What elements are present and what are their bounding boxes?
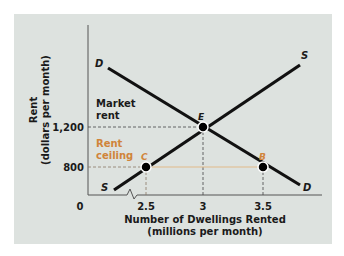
rent-ceiling-label-line1: Rent bbox=[96, 138, 123, 149]
supply-label-start: S bbox=[101, 182, 108, 193]
x-axis-subtitle: (millions per month) bbox=[147, 226, 262, 237]
point-c-label: C bbox=[141, 152, 148, 162]
point-e-marker bbox=[198, 122, 208, 132]
x-axis-title: Number of Dwellings Rented bbox=[124, 214, 286, 225]
y-axis-subtitle: (dollars per month) bbox=[40, 55, 51, 165]
point-c-marker bbox=[141, 162, 151, 172]
rent-ceiling-chart: D D S S E C B Market rent Rent ceiling 1… bbox=[0, 0, 344, 256]
x-tick-3-5: 3.5 bbox=[254, 201, 272, 212]
y-axis-title: Rent bbox=[28, 97, 39, 124]
y-tick-1200: 1,200 bbox=[52, 122, 84, 133]
point-b-label: B bbox=[259, 152, 266, 162]
x-tick-2-5: 2.5 bbox=[137, 201, 155, 212]
market-rent-label-line2: rent bbox=[96, 110, 120, 121]
y-tick-800: 800 bbox=[63, 162, 84, 173]
market-rent-label-line1: Market bbox=[96, 98, 136, 109]
demand-label-end: D bbox=[303, 182, 311, 193]
point-e-label: E bbox=[198, 112, 205, 122]
supply-label-end: S bbox=[301, 50, 308, 61]
demand-label-start: D bbox=[95, 58, 103, 69]
point-b-marker bbox=[258, 162, 268, 172]
x-tick-3: 3 bbox=[200, 201, 207, 212]
rent-ceiling-label-line2: ceiling bbox=[96, 150, 133, 161]
x-axis bbox=[88, 189, 322, 199]
origin-label: 0 bbox=[77, 201, 84, 212]
